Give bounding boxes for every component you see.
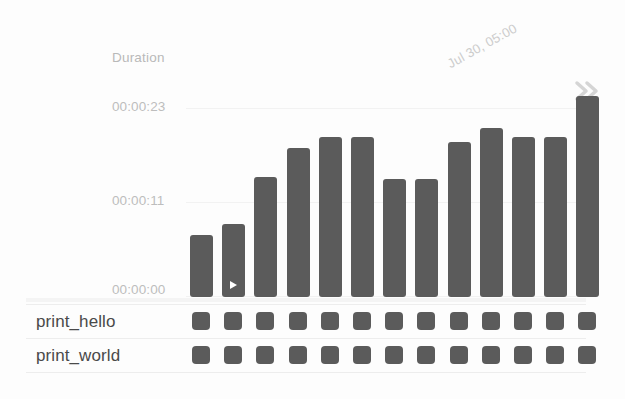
duration-bar[interactable]: [480, 128, 503, 297]
row-divider-top: [26, 304, 586, 305]
task-run-cell[interactable]: [385, 346, 403, 364]
task-run-cell[interactable]: [353, 346, 371, 364]
task-run-cell[interactable]: [578, 346, 596, 364]
task-run-cell[interactable]: [256, 346, 274, 364]
task-run-cell[interactable]: [385, 312, 403, 330]
duration-bar[interactable]: [190, 235, 213, 297]
gantt-duration-chart-panel: Duration 00:00:23 00:00:11 00:00:00 Jul …: [0, 0, 625, 399]
task-run-cell[interactable]: [353, 312, 371, 330]
duration-bar[interactable]: [544, 137, 567, 297]
duration-bar[interactable]: [319, 137, 342, 297]
task-run-cell[interactable]: [417, 346, 435, 364]
task-run-cell[interactable]: [256, 312, 274, 330]
duration-bar[interactable]: [576, 96, 599, 297]
task-run-cell[interactable]: [482, 312, 500, 330]
task-run-cell[interactable]: [224, 346, 242, 364]
task-run-cell[interactable]: [546, 346, 564, 364]
duration-bar[interactable]: [222, 224, 245, 297]
task-row-label-print-world[interactable]: print_world: [36, 346, 120, 366]
duration-bar[interactable]: [383, 179, 406, 297]
row-divider-bottom: [26, 372, 586, 373]
task-run-cell[interactable]: [450, 312, 468, 330]
task-run-cell[interactable]: [224, 312, 242, 330]
task-run-cell[interactable]: [482, 346, 500, 364]
duration-bar[interactable]: [448, 142, 471, 297]
task-run-cell[interactable]: [546, 312, 564, 330]
bar-series: [0, 0, 625, 399]
row-divider-middle: [26, 338, 586, 339]
duration-bar[interactable]: [415, 179, 438, 297]
duration-bar[interactable]: [287, 148, 310, 297]
task-run-cell[interactable]: [321, 346, 339, 364]
duration-bar[interactable]: [351, 137, 374, 297]
task-run-cell[interactable]: [289, 346, 307, 364]
task-run-cell[interactable]: [417, 312, 435, 330]
task-run-cell[interactable]: [192, 346, 210, 364]
task-run-cell[interactable]: [514, 312, 532, 330]
task-run-cell[interactable]: [514, 346, 532, 364]
task-run-cell[interactable]: [192, 312, 210, 330]
task-row-label-print-hello[interactable]: print_hello: [36, 312, 116, 332]
task-run-cell[interactable]: [321, 312, 339, 330]
task-run-cell[interactable]: [289, 312, 307, 330]
duration-bar[interactable]: [512, 137, 535, 297]
duration-bar[interactable]: [254, 177, 277, 297]
task-run-cell[interactable]: [578, 312, 596, 330]
task-run-cell[interactable]: [450, 346, 468, 364]
